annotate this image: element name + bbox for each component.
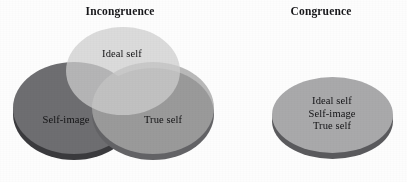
congruence-label-stack: Ideal self Self-image True self [308,95,355,133]
panel-title-incongruence: Incongruence [86,5,155,17]
circle-label-self-image: Self-image [42,114,89,125]
circle-label-true-self: True self [144,114,182,125]
incongruence-venn-diagram: Ideal self Self-image True self [0,0,230,182]
panel-title-congruence: Congruence [291,5,352,17]
venn-comparison-figure: Incongruence Ideal self Self-image True … [0,0,407,182]
congruence-label-self-image: Self-image [308,108,355,121]
circle-ideal-self-face [66,27,180,115]
congruence-label-ideal-self: Ideal self [308,95,355,108]
congruence-label-true-self: True self [308,120,355,133]
circle-ideal-self [66,27,180,115]
circle-label-ideal-self: Ideal self [102,48,142,59]
